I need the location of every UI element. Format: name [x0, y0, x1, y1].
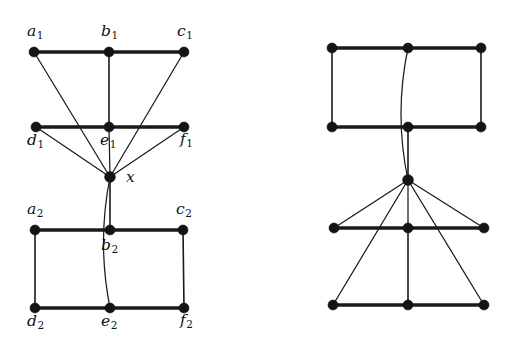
vertex-label-c1: c1 [177, 24, 193, 40]
graph-vertex [178, 225, 188, 235]
graph-vertex [329, 223, 339, 233]
graph-edge [334, 180, 408, 228]
vertex-label-e1: e1 [100, 133, 116, 149]
vertex-label-subscript: 1 [186, 137, 193, 149]
vertex-label-subscript: 2 [37, 319, 44, 331]
graph-vertex [105, 225, 115, 235]
graph-vertex [479, 223, 489, 233]
graph-edge [333, 180, 408, 305]
vertex-label-e2: e2 [101, 314, 117, 330]
graph-vertex [30, 225, 40, 235]
vertex-label-subscript: 1 [111, 29, 118, 41]
vertex-label-subscript: 2 [186, 318, 193, 330]
graph-vertex [327, 122, 337, 132]
vertex-label-subscript: 2 [111, 243, 118, 255]
vertex-label-b1: b1 [101, 24, 118, 40]
graph-edge [408, 180, 484, 305]
graph-vertex [479, 300, 489, 310]
graph-vertex [403, 175, 414, 186]
graph-canvas [0, 0, 519, 353]
graph-vertex [403, 122, 413, 132]
graph-edge [36, 127, 110, 177]
graph-edge [34, 52, 110, 177]
graph-edge [110, 52, 184, 177]
vertex-label-a1: a1 [27, 24, 43, 40]
vertex-label-b2: b2 [101, 238, 118, 254]
graph-vertex [476, 122, 486, 132]
graph-vertex [328, 300, 338, 310]
vertex-label-subscript: 1 [110, 138, 117, 150]
vertex-label-d1: d1 [27, 133, 44, 149]
vertex-label-a2: a2 [27, 202, 43, 218]
edges-layer [34, 48, 484, 308]
graph-vertex [403, 300, 413, 310]
graph-vertex [403, 223, 413, 233]
graph-edge [110, 127, 184, 177]
vertex-label-subscript: 1 [37, 138, 44, 150]
vertex-label-d2: d2 [27, 314, 44, 330]
vertex-label-subscript: 1 [37, 29, 44, 41]
graph-vertex [105, 172, 116, 183]
vertices-layer [29, 43, 489, 313]
figure-root: a1b1c1d1e1f1xa2b2c2d2e2f2 [0, 0, 519, 353]
graph-vertex [29, 47, 39, 57]
vertex-label-subscript: 2 [37, 207, 44, 219]
graph-edge [401, 48, 408, 180]
vertex-label-x: x [126, 170, 135, 186]
vertex-label-c2: c2 [176, 202, 192, 218]
vertex-label-f1: f1 [180, 132, 193, 148]
vertex-label-subscript: 1 [186, 29, 193, 41]
graph-vertex [476, 43, 486, 53]
graph-edge [408, 180, 484, 228]
vertex-label-subscript: 2 [185, 207, 192, 219]
graph-vertex [327, 43, 337, 53]
graph-vertex [104, 47, 114, 57]
graph-edge [183, 230, 184, 308]
graph-vertex [179, 47, 189, 57]
vertex-label-f2: f2 [180, 313, 193, 329]
vertex-label-subscript: 2 [111, 319, 118, 331]
graph-vertex [403, 43, 413, 53]
